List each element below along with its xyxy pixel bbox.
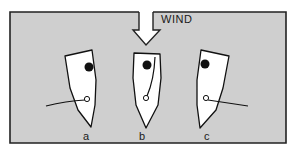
boat-a-mast-icon bbox=[85, 63, 94, 72]
boat-b-rudder-pivot-icon bbox=[143, 95, 148, 100]
boat-c-rudder-pivot-icon bbox=[203, 95, 208, 100]
boat-c-mast-icon bbox=[201, 60, 210, 69]
boat-a-rudder-pivot-icon bbox=[84, 96, 89, 101]
boat-a-label: a bbox=[83, 130, 90, 142]
boat-b-label: b bbox=[139, 130, 145, 142]
boat-b-mast-icon bbox=[143, 61, 152, 70]
boat-c-label: c bbox=[204, 130, 210, 142]
sailing-wind-diagram: WIND a b c bbox=[0, 0, 298, 152]
wind-label: WIND bbox=[161, 13, 192, 25]
